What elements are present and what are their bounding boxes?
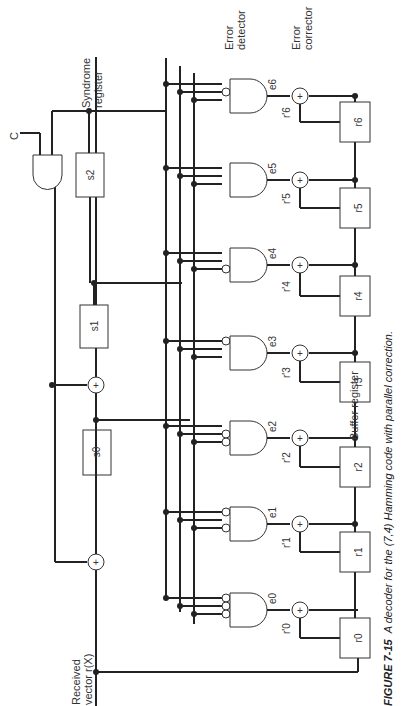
svg-text:r4: r4 [353, 291, 364, 300]
detector-label: Errordetector [223, 10, 247, 50]
and-gate-icon [230, 421, 267, 455]
svg-text:r5: r5 [353, 203, 364, 212]
svg-text:+: + [93, 557, 99, 568]
svg-text:r'1: r'1 [281, 537, 292, 548]
control-and-gate-icon [33, 155, 62, 190]
svg-text:r2: r2 [353, 462, 364, 471]
svg-text:+: + [297, 519, 303, 530]
svg-text:e1: e1 [267, 506, 278, 518]
svg-text:+: + [297, 605, 303, 616]
svg-text:+: + [297, 433, 303, 444]
svg-text:+: + [297, 348, 303, 359]
svg-text:+: + [297, 260, 303, 271]
input-label: Receivedvector r(X) [70, 654, 94, 705]
svg-text:e3: e3 [267, 335, 278, 347]
svg-text:+: + [297, 91, 303, 102]
svg-text:+: + [93, 380, 99, 391]
and-gate-icon [230, 507, 267, 541]
svg-text:e4: e4 [267, 247, 278, 259]
svg-text:+: + [297, 175, 303, 186]
svg-text:e2: e2 [267, 420, 278, 432]
svg-text:r'0: r'0 [281, 623, 292, 634]
and-gate-icon [230, 593, 267, 627]
svg-text:r'5: r'5 [281, 193, 292, 204]
buffer-label: Buffer register [348, 371, 360, 440]
svg-text:r'3: r'3 [281, 367, 292, 378]
svg-text:s2: s2 [85, 169, 96, 180]
decoder-schematic: + + +e0r'0r0+e1r'1r1+e2r'2r2+e3r'3r3+e4r… [0, 0, 402, 706]
syndrome-label: Syndromeregister [80, 58, 104, 108]
svg-text:e5: e5 [267, 162, 278, 174]
svg-text:r0: r0 [353, 633, 364, 642]
svg-text:e0: e0 [267, 592, 278, 604]
svg-text:e6: e6 [267, 78, 278, 90]
svg-text:r'6: r'6 [281, 107, 292, 118]
and-gate-icon [230, 79, 267, 113]
figure-caption: FIGURE 7-15 A decoder for the (7,4) Hamm… [382, 331, 394, 706]
svg-text:s0: s0 [91, 446, 102, 457]
svg-text:r6: r6 [353, 117, 364, 126]
control-label: C [8, 132, 20, 140]
and-gate-icon [230, 336, 267, 370]
svg-text:r1: r1 [353, 547, 364, 556]
and-gate-icon [230, 248, 267, 282]
corrector-label: Errorcorrector [290, 7, 314, 50]
and-gate-icon [230, 163, 267, 197]
svg-text:r'4: r'4 [281, 281, 292, 292]
svg-text:s1: s1 [89, 320, 100, 331]
svg-text:r'2: r'2 [281, 452, 292, 463]
